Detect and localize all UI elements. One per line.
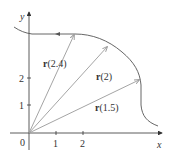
vector-function-diagram: y x 0 1 2 1 2 r(2.4) r(2) r(1.5): [0, 0, 170, 162]
x-axis-label: x: [156, 139, 162, 150]
vector-label-r-1.5: r(1.5): [95, 102, 119, 114]
y-tick-label-1: 1: [19, 100, 24, 111]
vector-r-2: [29, 47, 107, 133]
curve: [14, 27, 158, 126]
x-tick-label-2: 2: [80, 138, 85, 149]
y-axis-label: y: [19, 11, 25, 22]
vector-r-2.4: [29, 35, 74, 133]
y-tick-label-2: 2: [19, 73, 24, 84]
x-tick-label-1: 1: [53, 138, 58, 149]
vector-label-r-2.4: r(2.4): [43, 58, 67, 70]
vector-r-1.5: [29, 80, 139, 133]
origin-label: 0: [20, 137, 25, 148]
vector-label-r-2: r(2): [96, 71, 112, 83]
curve-direction-arrow-icon: [55, 32, 60, 36]
